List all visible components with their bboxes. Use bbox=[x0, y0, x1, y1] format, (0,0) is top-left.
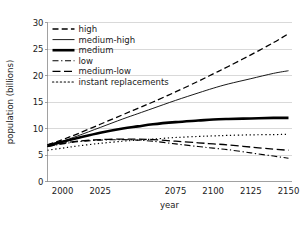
chart-canvas: 051015202530 200020252075210021252150 hi… bbox=[0, 0, 301, 227]
legend-label-low: low bbox=[79, 56, 94, 66]
x-tick-label-2150: 2150 bbox=[278, 186, 300, 196]
y-tick-label-5: 5 bbox=[38, 150, 43, 160]
x-axis-title: year bbox=[160, 200, 179, 210]
legend-label-medium-low: medium-low bbox=[79, 66, 132, 76]
y-tick-label-15: 15 bbox=[33, 97, 44, 107]
population-projection-chart: 051015202530 200020252075210021252150 hi… bbox=[0, 0, 301, 227]
x-tick-label-2100: 2100 bbox=[202, 186, 224, 196]
legend-label-instant-replacements: instant replacements bbox=[79, 77, 170, 87]
legend-label-medium-high: medium-high bbox=[79, 35, 136, 45]
x-tick-label-2025: 2025 bbox=[89, 186, 111, 196]
legend-label-medium: medium bbox=[79, 45, 114, 55]
y-tick-label-0: 0 bbox=[38, 177, 43, 187]
y-tick-label-10: 10 bbox=[33, 124, 44, 134]
y-tick-label-20: 20 bbox=[33, 71, 44, 81]
y-axis-title: population (billions) bbox=[5, 60, 15, 144]
x-tick-label-2075: 2075 bbox=[165, 186, 187, 196]
y-tick-label-25: 25 bbox=[33, 44, 44, 54]
legend-label-high: high bbox=[79, 24, 98, 34]
y-tick-label-30: 30 bbox=[33, 18, 44, 28]
x-tick-label-2125: 2125 bbox=[240, 186, 262, 196]
x-tick-label-2000: 2000 bbox=[52, 186, 74, 196]
